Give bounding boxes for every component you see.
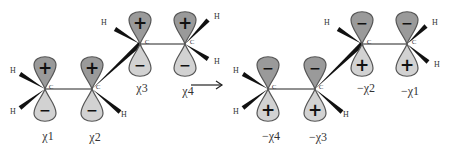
- hydrogen-label: H: [214, 57, 220, 66]
- phase-sign: −: [309, 61, 321, 75]
- hydrogen-label: H: [233, 66, 239, 75]
- phase-sign: −: [39, 103, 51, 117]
- carbon-label: C: [49, 83, 54, 91]
- hydrogen-label: H: [121, 110, 127, 119]
- hydrogen-label: H: [214, 12, 220, 21]
- phase-sign: +: [178, 15, 192, 32]
- phase-sign: −: [401, 16, 413, 30]
- phase-sign: −: [86, 103, 98, 117]
- carbon-label: C: [272, 83, 277, 91]
- phase-sign: +: [38, 60, 52, 77]
- carbon-label: C: [190, 38, 195, 46]
- orbital-label: χ4: [182, 84, 193, 99]
- carbon-label: C: [319, 83, 324, 91]
- orbital-label: χ2: [89, 130, 100, 145]
- phase-sign: +: [261, 102, 275, 119]
- hydrogen-label: H: [10, 107, 16, 116]
- phase-sign: +: [85, 60, 99, 77]
- orbital-label: −χ1: [401, 84, 419, 99]
- orbital-label: −χ4: [262, 129, 280, 144]
- hydrogen-label: H: [343, 110, 349, 119]
- hydrogen-label: H: [434, 60, 440, 69]
- orbital-diagram: [0, 0, 450, 152]
- hydrogen-label: H: [101, 18, 107, 27]
- carbon-label: C: [367, 38, 372, 46]
- phase-sign: +: [355, 57, 369, 74]
- phase-sign: −: [262, 61, 274, 75]
- hydrogen-label: H: [324, 18, 330, 27]
- phase-sign: +: [308, 102, 322, 119]
- phase-sign: −: [356, 16, 368, 30]
- phase-sign: −: [179, 58, 191, 72]
- orbital-label: χ3: [136, 81, 147, 96]
- carbon-label: C: [145, 38, 150, 46]
- carbon-label: C: [412, 38, 417, 46]
- orbital-label: χ1: [42, 129, 53, 144]
- hydrogen-label: H: [10, 66, 16, 75]
- carbon-label: C: [96, 83, 101, 91]
- orbital-label: −χ2: [357, 81, 375, 96]
- orbital-label: −χ3: [309, 130, 327, 145]
- phase-sign: +: [133, 15, 147, 32]
- phase-sign: +: [400, 57, 414, 74]
- hydrogen-label: H: [432, 18, 438, 27]
- phase-sign: −: [134, 58, 146, 72]
- hydrogen-label: H: [233, 107, 239, 116]
